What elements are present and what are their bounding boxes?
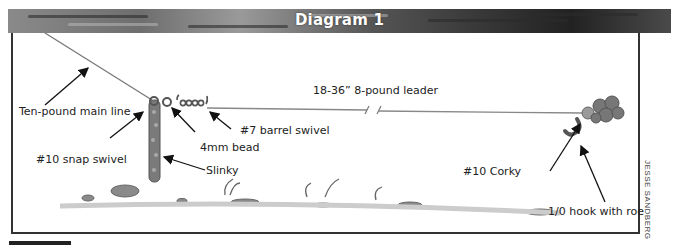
label-bead: 4mm bead: [200, 141, 259, 154]
label-slinky: Slinky: [206, 164, 239, 177]
label-main-line: Ten-pound main line: [19, 105, 131, 118]
label-hook: 1/0 hook with roe: [548, 205, 644, 218]
footer-bar: [9, 241, 71, 245]
barrel-swivel: [177, 95, 207, 106]
photo-credit: JESSE SANDBERG: [643, 160, 652, 239]
bead: [163, 98, 171, 106]
label-snap-swivel: #10 snap swivel: [36, 153, 127, 166]
label-corky: #10 Corky: [463, 165, 521, 178]
hook: [565, 119, 580, 135]
roe-cluster: [591, 96, 624, 123]
leader-line: [207, 108, 367, 110]
label-barrel-swivel: #7 barrel swivel: [240, 124, 329, 137]
main-line: [45, 33, 152, 100]
label-leader: 18-36” 8-pound leader: [313, 84, 438, 97]
